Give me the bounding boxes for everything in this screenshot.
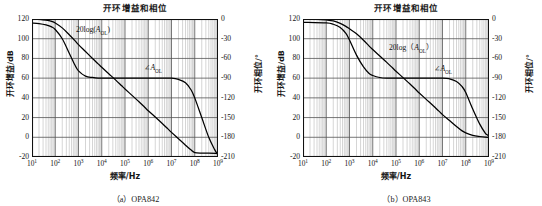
y-axis-right-label-b: 开环相位/° [523,39,534,109]
y-tick-left: 60 [292,74,300,82]
x-tick: 102 [321,159,331,168]
gain-curve-annotation-b: 20log（AOL） [389,41,434,52]
x-tick: 108 [461,159,471,168]
figure-b-caption: （b）OPA843 [271,192,542,204]
y-tick-left: 100 [289,35,300,43]
y-axis-left-label-a: 开环增益/dB [4,39,15,109]
y-tick-right: -210 [492,153,506,161]
figure-page: 开环增益和相位 20log(AOL) ∠AOL 120100806040200-… [0,0,542,206]
y-tick-left: 120 [289,15,300,23]
x-tick: 103 [73,159,83,168]
y-tick-right: -210 [221,153,235,161]
figure-opa842: 开环增益和相位 20log(AOL) ∠AOL 120100806040200-… [0,0,271,206]
x-tick: 106 [143,159,153,168]
plot-area-a: 20log(AOL) ∠AOL [32,19,218,157]
y-tick-right: -120 [492,94,506,102]
y-tick-left: 0 [296,133,300,141]
x-tick: 104 [97,159,107,168]
x-tick: 108 [190,159,200,168]
y-axis-right-ticks-a: 0-30-60-90-120-150-180-210 [221,19,251,157]
y-tick-right: -180 [492,133,506,141]
phase-curve-annotation-a: ∠AOL [144,63,162,72]
x-tick: 101 [298,159,308,168]
y-tick-right: -150 [492,114,506,122]
y-tick-left: 60 [21,74,29,82]
plot-svg-b [303,19,489,157]
figure-a-title: 开环增益和相位 [0,1,271,13]
x-tick: 109 [484,159,494,168]
x-axis-label-b: 频率/Hz [303,170,489,181]
figure-b-title: 开环增益和相位 [271,1,542,13]
y-tick-right: -60 [492,54,502,62]
y-tick-right: 0 [221,15,225,23]
figure-opa843: 开环增益和相位 20log（AOL） ∠AOL 120100806040200-… [271,0,542,206]
x-tick: 102 [50,159,60,168]
y-tick-left: 20 [21,114,29,122]
y-tick-left: 40 [21,94,29,102]
x-axis-label-a: 频率/Hz [32,170,218,181]
figure-a-caption: （a）OPA842 [0,192,271,204]
plot-area-b: 20log（AOL） ∠AOL [303,19,489,157]
x-tick: 101 [27,159,37,168]
y-tick-left: 20 [292,114,300,122]
x-tick: 105 [120,159,130,168]
y-tick-right: -120 [221,94,235,102]
y-tick-left: 40 [292,94,300,102]
y-axis-right-label-a: 开环相位/° [252,39,263,109]
y-tick-right: -90 [221,74,231,82]
plot-svg-a [32,19,218,157]
y-tick-left: 120 [18,15,29,23]
gain-curve-annotation-a: 20log(AOL) [76,25,110,34]
y-tick-left: 0 [25,133,29,141]
x-tick: 106 [414,159,424,168]
y-tick-right: -150 [221,114,235,122]
x-tick: 103 [344,159,354,168]
x-tick: 107 [166,159,176,168]
x-tick: 104 [368,159,378,168]
y-tick-right: -90 [492,74,502,82]
y-tick-left: 100 [18,35,29,43]
y-tick-left: 80 [21,54,29,62]
x-tick: 109 [213,159,223,168]
x-tick: 107 [437,159,447,168]
y-tick-right: 0 [492,15,496,23]
y-axis-right-ticks-b: 0-30-60-90-120-150-180-210 [492,19,522,157]
y-tick-right: -180 [221,133,235,141]
x-tick: 105 [391,159,401,168]
phase-curve-annotation-b: ∠AOL [434,64,452,73]
y-tick-right: -30 [221,35,231,43]
y-axis-left-label-b: 开环增益/dB [275,39,286,109]
y-tick-left: 80 [292,54,300,62]
y-tick-right: -30 [492,35,502,43]
y-tick-right: -60 [221,54,231,62]
